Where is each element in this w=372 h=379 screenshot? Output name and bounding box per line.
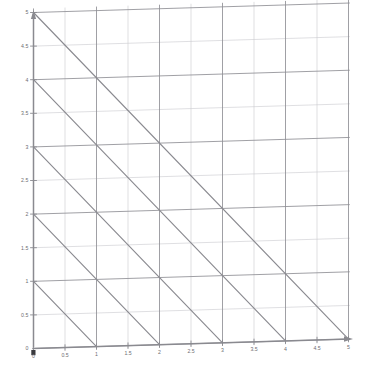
y-axis-label-1: 1 — [25, 278, 28, 284]
x-axis-label-4.5: 4.5 — [313, 345, 320, 351]
x-axis-label-2.5: 2.5 — [187, 348, 194, 354]
figure-background — [0, 0, 372, 379]
x-axis-label-0.5: 0.5 — [61, 352, 68, 358]
y-axis-label-3.5: 3.5 — [21, 110, 28, 116]
y-axis-label-2.5: 2.5 — [21, 177, 28, 183]
y-axis-label-0.5: 0.5 — [21, 312, 28, 318]
x-axis-label-0: 0 — [32, 353, 35, 359]
x-axis-label-4: 4 — [284, 346, 287, 352]
x-axis-label-1.5: 1.5 — [124, 350, 131, 356]
y-axis-label-0: 0 — [25, 345, 28, 351]
y-axis-label-4.5: 4.5 — [21, 43, 28, 49]
x-axis-label-3: 3 — [221, 347, 224, 353]
x-axis-label-2: 2 — [158, 349, 161, 355]
y-axis-label-2: 2 — [25, 211, 28, 217]
coordinate-grid-figure: 00.511.522.533.544.55 00.511.522.533.544… — [0, 0, 372, 379]
graph-canvas: 00.511.522.533.544.55 00.511.522.533.544… — [0, 0, 372, 379]
y-axis-label-3: 3 — [25, 144, 28, 150]
x-axis-label-3.5: 3.5 — [250, 346, 257, 352]
x-axis-label-1: 1 — [95, 351, 98, 357]
x-axis-label-5: 5 — [347, 344, 350, 350]
y-axis-label-4: 4 — [25, 77, 28, 83]
y-axis-label-1.5: 1.5 — [21, 245, 28, 251]
y-axis-label-5: 5 — [25, 9, 28, 15]
